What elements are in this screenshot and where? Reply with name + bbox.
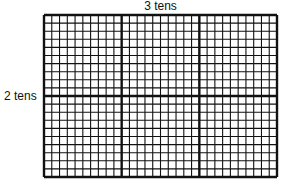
tens-grid (0, 0, 293, 189)
